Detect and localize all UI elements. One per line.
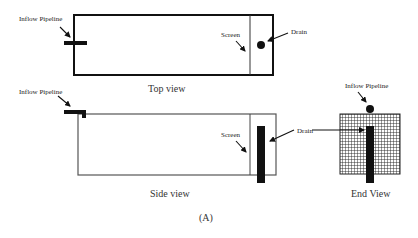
side-view-title: Side view: [150, 188, 190, 199]
side-view-inflow-label: Inflow Pipeline: [19, 88, 62, 96]
side-view-inflow-arrow: [58, 96, 70, 106]
side-view-screen-label: Screen: [221, 131, 241, 139]
side-view-inflow-elbow: [82, 110, 86, 118]
top-view-screen-label: Screen: [221, 31, 241, 39]
top-view-drain-label: Drain: [291, 28, 307, 36]
top-view-tank-outline: [74, 15, 273, 75]
end-view-inflow-label: Inflow Pipeline: [345, 82, 388, 90]
end-view-inflow-pipe: [366, 105, 374, 113]
side-view-drain-arrow: [270, 130, 294, 141]
top-view-screen-arrow: [236, 41, 245, 51]
end-view-drain-pipe: [366, 126, 374, 183]
end-view: Inflow Pipeline End View: [312, 82, 400, 199]
top-view-drain-arrow: [268, 33, 288, 41]
top-view: Inflow Pipeline Screen Drain Top view: [19, 15, 307, 94]
tank-diagram: Inflow Pipeline Screen Drain Top view In…: [0, 0, 418, 238]
side-view-tank-outline: [78, 114, 276, 175]
side-view: Inflow Pipeline Screen Drain Side view: [19, 88, 313, 199]
side-view-drain-pipe: [257, 126, 265, 183]
top-view-inflow-arrow: [60, 27, 70, 37]
end-view-title: End View: [351, 188, 391, 199]
top-view-inflow-pipe: [64, 41, 87, 45]
figure-caption: (A): [199, 212, 213, 224]
top-view-title: Top view: [148, 83, 186, 94]
top-view-drain-dot: [257, 41, 265, 49]
side-view-screen-arrow: [236, 141, 246, 152]
side-view-drain-label: Drain: [297, 127, 313, 135]
top-view-inflow-label: Inflow Pipeline: [19, 15, 62, 23]
end-view-inflow-arrow: [358, 92, 366, 102]
